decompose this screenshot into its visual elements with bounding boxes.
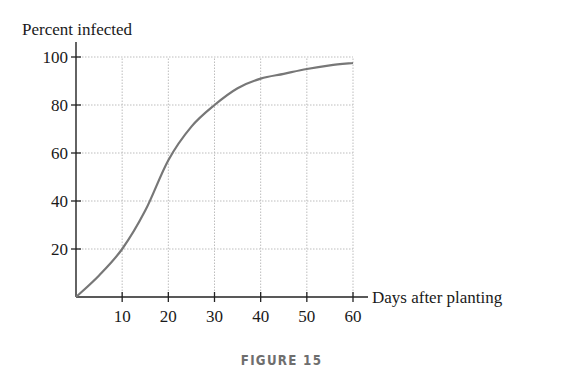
figure-caption: FIGURE 15: [42, 352, 521, 368]
axes: [71, 42, 368, 302]
x-tick-label: 40: [252, 307, 269, 326]
y-tick-label: 40: [51, 192, 68, 211]
x-tick-label: 30: [206, 307, 223, 326]
y-tick-label: 20: [51, 240, 68, 259]
infection-chart: 10203040506020406080100 Percent infected…: [0, 0, 563, 385]
x-tick-label: 20: [160, 307, 177, 326]
y-tick-label: 100: [43, 48, 69, 67]
y-tick-label: 80: [51, 96, 68, 115]
x-axis-label: Days after planting: [372, 288, 503, 307]
y-tick-label: 60: [51, 144, 68, 163]
x-tick-label: 10: [114, 307, 131, 326]
x-tick-label: 60: [345, 307, 362, 326]
x-tick-label: 50: [298, 307, 315, 326]
y-axis-label: Percent infected: [22, 20, 132, 39]
gridlines: [76, 57, 353, 297]
